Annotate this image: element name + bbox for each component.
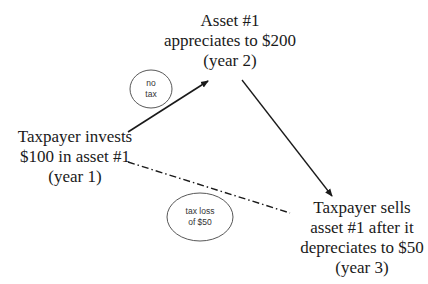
node-left-line-3: (year 1) [0, 167, 150, 187]
tax-loss-line-2: of $50 [167, 217, 233, 228]
node-top-line-2: appreciates to $200 [150, 31, 310, 51]
node-top-line-3: (year 2) [150, 51, 310, 71]
no-tax-line-2: tax [131, 89, 171, 100]
node-left-line-2: $100 in asset #1 [0, 147, 150, 167]
no-tax-label: no tax [131, 78, 171, 100]
node-right-line-2: asset #1 after it [282, 218, 428, 238]
node-right-line-4: (year 3) [282, 258, 428, 278]
node-left-line-1: Taxpayer invests [0, 127, 150, 147]
tax-loss-label: tax loss of $50 [167, 206, 233, 228]
node-right-line-1: Taxpayer sells [282, 198, 428, 218]
node-right-line-3: depreciates to $50 [282, 238, 428, 258]
node-asset-appreciates: Asset #1 appreciates to $200 (year 2) [150, 11, 310, 71]
node-taxpayer-invests: Taxpayer invests $100 in asset #1 (year … [0, 127, 150, 187]
arrow-appreciate-to-sell [242, 80, 332, 196]
tax-loss-line-1: tax loss [167, 206, 233, 217]
no-tax-line-1: no [131, 78, 171, 89]
node-taxpayer-sells: Taxpayer sells asset #1 after it depreci… [282, 198, 428, 278]
node-top-line-1: Asset #1 [150, 11, 310, 31]
